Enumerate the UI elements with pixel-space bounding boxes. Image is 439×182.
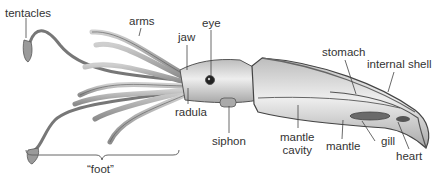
label-heart: heart xyxy=(396,151,422,163)
label-radula: radula xyxy=(175,107,207,119)
heart-shape xyxy=(396,116,410,122)
label-mantle-cavity-line2: cavity xyxy=(283,144,312,156)
gill-shape xyxy=(350,112,390,120)
label-gill: gill xyxy=(381,136,395,148)
tentacle-clubs xyxy=(23,40,38,164)
eye-shape xyxy=(206,76,215,85)
label-stomach: stomach xyxy=(322,47,365,59)
label-mantle-cavity: mantle cavity xyxy=(280,131,315,157)
siphon-shape xyxy=(220,98,236,107)
label-jaw: jaw xyxy=(178,32,195,44)
label-mantle-cavity-line1: mantle xyxy=(280,131,315,143)
foot-brace xyxy=(26,150,179,160)
label-mantle: mantle xyxy=(326,141,361,153)
mantle-body xyxy=(252,58,429,148)
label-internal-shell: internal shell xyxy=(367,59,432,71)
label-eye: eye xyxy=(202,18,221,30)
label-siphon: siphon xyxy=(212,136,246,148)
arms xyxy=(75,32,185,142)
label-foot: “foot” xyxy=(87,164,114,176)
head xyxy=(180,59,258,102)
label-tentacles: tentacles xyxy=(5,8,51,20)
label-arms: arms xyxy=(129,16,155,28)
